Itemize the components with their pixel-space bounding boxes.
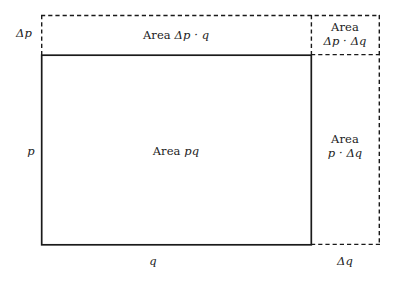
top-strip-area-label: Area Δp · q bbox=[143, 29, 209, 43]
base-area-label: Area pq bbox=[153, 145, 200, 159]
base-area-prefix: Area bbox=[153, 144, 181, 158]
corner-area-prefix: Area bbox=[324, 20, 367, 34]
dimension-label-q: q bbox=[149, 255, 156, 269]
dimension-label-delta-q: Δq bbox=[337, 255, 353, 269]
right-strip-area-expression: p · Δq bbox=[328, 146, 363, 160]
corner-area-expression: Δp · Δq bbox=[324, 34, 367, 48]
dimension-label-delta-p: Δp bbox=[16, 27, 32, 41]
corner-area-label: Area Δp · Δq bbox=[324, 20, 367, 48]
area-decomposition-diagram: Δp p q Δq Area Δp · q Area Δp · Δq Area … bbox=[0, 0, 403, 281]
right-strip-area-prefix: Area bbox=[328, 132, 363, 146]
top-strip-area-prefix: Area bbox=[143, 28, 171, 42]
base-area-expression: pq bbox=[184, 144, 199, 158]
right-strip-area-label: Area p · Δq bbox=[328, 132, 363, 160]
dimension-label-p: p bbox=[27, 145, 34, 159]
top-strip-area-expression: Δp · q bbox=[175, 28, 210, 42]
